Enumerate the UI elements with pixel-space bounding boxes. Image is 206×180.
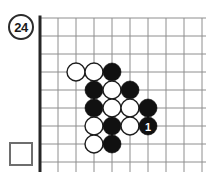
black-stone[interactable] (85, 99, 103, 117)
white-stone-disc[interactable] (85, 63, 103, 81)
black-stone[interactable] (139, 99, 157, 117)
white-stone[interactable] (85, 117, 103, 135)
white-stone[interactable] (121, 117, 139, 135)
white-stone-disc[interactable] (67, 63, 85, 81)
white-stone-disc[interactable] (85, 117, 103, 135)
go-board-canvas[interactable]: 1 (30, 8, 206, 172)
black-stone-disc[interactable] (103, 135, 121, 153)
white-stone-disc[interactable] (121, 99, 139, 117)
white-stone[interactable] (103, 99, 121, 117)
white-stone-disc[interactable] (103, 81, 121, 99)
black-stone[interactable] (85, 81, 103, 99)
black-stone-disc[interactable] (85, 99, 103, 117)
move-number-label: 1 (145, 121, 151, 133)
black-stone-disc[interactable] (103, 117, 121, 135)
white-stone[interactable] (67, 63, 85, 81)
go-problem-figure: 24 1 (0, 0, 206, 180)
white-stone[interactable] (85, 135, 103, 153)
white-stone-disc[interactable] (121, 117, 139, 135)
white-stone-disc[interactable] (103, 99, 121, 117)
white-stone[interactable] (85, 63, 103, 81)
white-stone-disc[interactable] (85, 135, 103, 153)
black-stone[interactable] (103, 135, 121, 153)
go-board[interactable]: 1 (30, 8, 206, 172)
white-stone[interactable] (121, 99, 139, 117)
black-stone-disc[interactable] (139, 99, 157, 117)
white-stone[interactable] (103, 81, 121, 99)
black-stone-disc[interactable] (121, 81, 139, 99)
black-stone[interactable] (103, 63, 121, 81)
black-stone-disc[interactable] (85, 81, 103, 99)
black-stone[interactable] (121, 81, 139, 99)
black-stone-disc[interactable] (103, 63, 121, 81)
black-stone[interactable]: 1 (139, 117, 157, 135)
black-stone[interactable] (103, 117, 121, 135)
